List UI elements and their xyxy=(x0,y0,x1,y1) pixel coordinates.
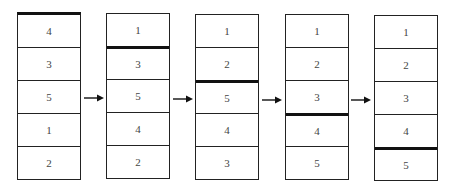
cell: 1 xyxy=(196,15,258,47)
cell: 2 xyxy=(375,48,437,81)
cell: 1 xyxy=(286,15,348,47)
cell: 2 xyxy=(196,47,258,80)
cell: 4 xyxy=(286,113,348,146)
cell: 5 xyxy=(107,79,169,112)
cell: 4 xyxy=(375,114,437,147)
cell: 4 xyxy=(18,15,80,47)
arrow-right-icon xyxy=(350,95,372,105)
cell: 2 xyxy=(107,145,169,178)
cell: 5 xyxy=(286,146,348,179)
arrow-right-icon xyxy=(172,94,194,104)
stack-4: 1 2 3 4 5 xyxy=(285,14,349,180)
cell: 3 xyxy=(107,46,169,79)
stack-3: 1 2 5 4 3 xyxy=(195,14,259,180)
arrow-right-icon xyxy=(83,93,105,103)
cell: 1 xyxy=(18,113,80,146)
cell: 3 xyxy=(286,80,348,113)
stack-1: 4 3 5 1 2 xyxy=(17,12,81,180)
cell: 5 xyxy=(375,147,437,180)
cell: 1 xyxy=(107,14,169,46)
cell: 5 xyxy=(196,80,258,113)
cell: 2 xyxy=(286,47,348,80)
cell: 3 xyxy=(18,47,80,80)
cell: 4 xyxy=(107,112,169,145)
stack-2: 1 3 5 4 2 xyxy=(106,13,170,179)
cell: 2 xyxy=(18,146,80,179)
cell: 3 xyxy=(375,81,437,114)
arrow-right-icon xyxy=(261,95,283,105)
cell: 4 xyxy=(196,113,258,146)
cell: 5 xyxy=(18,80,80,113)
cell: 1 xyxy=(375,16,437,48)
stack-5: 1 2 3 4 5 xyxy=(374,15,438,181)
cell: 3 xyxy=(196,146,258,179)
